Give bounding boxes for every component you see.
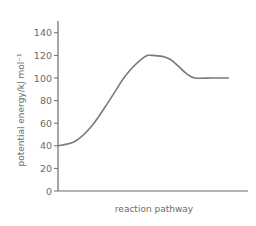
y-axis: 020406080100120140 xyxy=(34,21,58,197)
energy-curve xyxy=(58,55,229,146)
y-tick-label: 60 xyxy=(40,118,52,129)
y-tick-label: 140 xyxy=(34,27,52,38)
y-tick-label: 100 xyxy=(34,73,52,84)
y-tick-label: 0 xyxy=(46,186,52,197)
y-tick-label: 20 xyxy=(40,163,52,174)
energy-profile-chart: 020406080100120140 reaction pathway pote… xyxy=(0,0,256,226)
y-ticks: 020406080100120140 xyxy=(34,27,58,196)
x-axis-label: reaction pathway xyxy=(115,204,194,214)
y-axis-label: potential energy/kJ mol⁻¹ xyxy=(16,53,26,167)
y-tick-label: 120 xyxy=(34,50,52,61)
y-tick-label: 80 xyxy=(40,95,52,106)
y-tick-label: 40 xyxy=(40,140,52,151)
